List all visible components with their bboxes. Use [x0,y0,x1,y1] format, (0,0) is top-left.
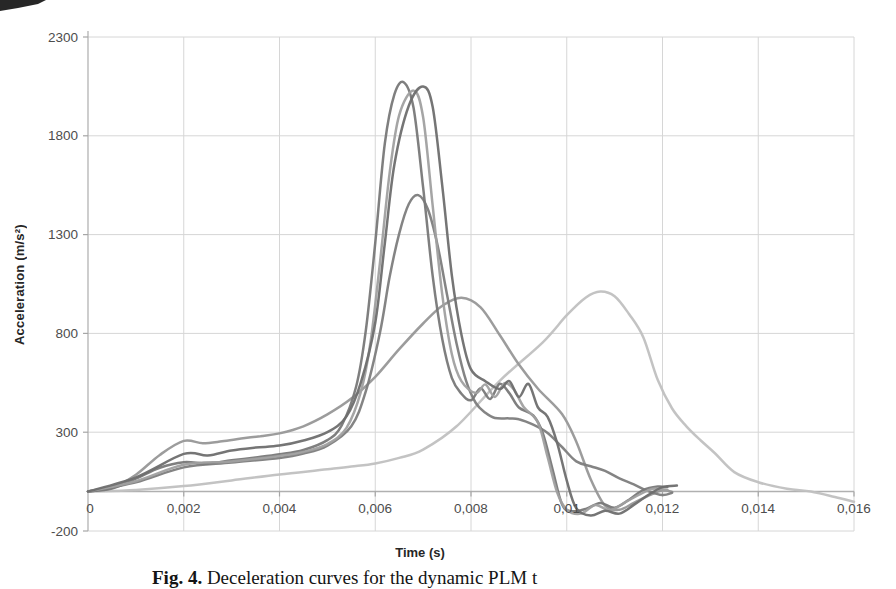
y-tick-label: -200 [51,524,78,539]
y-tick-label: 1300 [48,227,78,242]
x-tick-label: 0,016 [837,501,871,516]
y-tick-label: 800 [55,326,78,341]
y-tick-label: 300 [55,425,78,440]
y-tick-label: 2300 [48,30,78,45]
x-tick-label: 0 [86,501,94,516]
x-tick-label: 0,012 [646,501,680,516]
x-axis-title: Time (s) [350,545,490,560]
curve-3-dark-2050 [88,86,677,515]
figure-caption-text: Deceleration curves for the dynamic PLM … [202,567,537,588]
x-tick-label: 0,014 [741,501,775,516]
y-tick-label: 1800 [48,128,78,143]
figure-caption-number: Fig. 4. [152,567,202,588]
x-tick-label: 0,008 [454,501,488,516]
x-tick-label: 0,01 [554,501,580,516]
scan-artifact [0,0,46,11]
curve-4-dark-1500 [88,195,672,495]
x-tick-label: 0,002 [167,501,201,516]
y-axis-title: Acceleration (m/s²) [6,178,32,392]
figure-caption: Fig. 4. Deceleration curves for the dyna… [152,567,792,589]
x-tick-label: 0,004 [263,501,297,516]
x-tick-label: 0,006 [358,501,392,516]
